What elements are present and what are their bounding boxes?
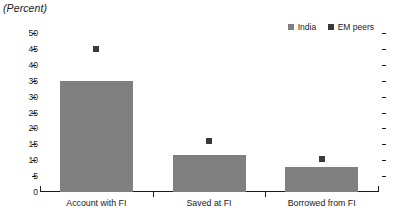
x-axis-tick-mark (153, 192, 154, 197)
x-axis-category-label: Saved at FI (187, 199, 232, 208)
plot-area (0, 0, 396, 192)
bar-india-2 (173, 155, 246, 192)
bar-chart: (Percent) IndiaEM peers 0510152025303540… (0, 0, 396, 216)
x-axis-category-label: Borrowed from FI (288, 199, 356, 208)
x-axis-category-label: Account with FI (66, 199, 126, 208)
bar-india-1 (60, 81, 133, 192)
marker-em-peers-1 (93, 46, 99, 52)
bar-india-3 (285, 167, 358, 192)
x-axis-tick-mark (265, 192, 266, 197)
marker-em-peers-2 (206, 138, 212, 144)
marker-em-peers-3 (319, 156, 325, 162)
